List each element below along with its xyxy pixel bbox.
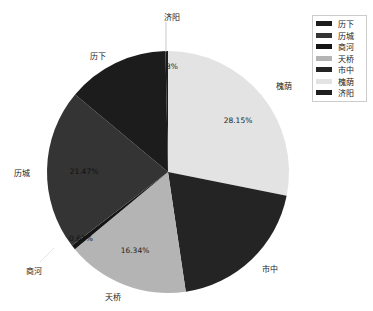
legend-swatch: [316, 44, 332, 49]
label-shanghe: 商河: [26, 265, 42, 276]
pct-tianqiao: 16.34%: [121, 246, 150, 255]
label-jiyang: 济阳: [164, 11, 180, 22]
label-shizhong: 市中: [262, 263, 278, 274]
pct-huaiyin: 28.15%: [224, 116, 253, 125]
chart-legend: 历下历城商河天桥市中槐荫济阳: [312, 15, 367, 102]
legend-swatch: [316, 56, 332, 61]
legend-swatch: [316, 79, 332, 84]
legend-label: 济阳: [338, 87, 354, 98]
legend-label: 商河: [338, 41, 354, 52]
legend-label: 市中: [338, 64, 354, 75]
label-huaiyin: 槐荫: [276, 80, 292, 91]
legend-item: 济阳: [316, 87, 363, 99]
pct-licheng: 21.47%: [70, 167, 99, 176]
legend-swatch: [316, 67, 332, 72]
legend-label: 天桥: [338, 53, 354, 64]
shanghe-leader-line: [40, 248, 54, 262]
legend-item: 市中: [316, 64, 363, 76]
legend-swatch: [316, 33, 332, 38]
legend-swatch: [316, 21, 332, 26]
legend-label: 历城: [338, 30, 354, 41]
legend-label: 历下: [338, 18, 354, 29]
pct-shanghe: 0.61%: [69, 234, 93, 243]
legend-label: 槐荫: [338, 76, 354, 87]
label-lixia: 历下: [90, 50, 106, 61]
pct-jiyang: 3%: [166, 62, 178, 71]
label-licheng: 历城: [14, 167, 30, 178]
legend-item: 历下: [316, 18, 363, 30]
legend-item: 商河: [316, 41, 363, 53]
legend-item: 历城: [316, 30, 363, 42]
label-tianqiao: 天桥: [105, 291, 121, 302]
legend-item: 天桥: [316, 53, 363, 65]
legend-item: 槐荫: [316, 76, 363, 88]
legend-swatch: [316, 90, 332, 95]
